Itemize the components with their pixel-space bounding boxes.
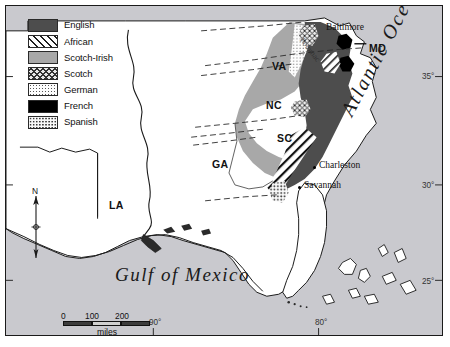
historical-ethnic-settlement-map: English African Scotch-Irish Scotch Germ… bbox=[0, 0, 450, 347]
legend-swatch-african bbox=[28, 35, 58, 48]
map-frame: English African Scotch-Irish Scotch Germ… bbox=[5, 5, 443, 336]
lon-label-80: 80° bbox=[315, 319, 327, 327]
legend-item-french[interactable]: French bbox=[28, 98, 138, 114]
state-label-la: LA bbox=[109, 200, 124, 211]
legend-swatch-german bbox=[28, 83, 58, 96]
scale-segment-1 bbox=[63, 321, 92, 326]
legend-label-african: African bbox=[64, 37, 93, 47]
compass-label-north: N bbox=[32, 187, 38, 195]
legend-label-scotch-irish: Scotch-Irish bbox=[64, 53, 113, 63]
scale-tick-0: 0 bbox=[61, 311, 66, 321]
legend-swatch-english bbox=[28, 19, 58, 32]
city-label-savannah: Savannah bbox=[304, 181, 341, 191]
legend-item-german[interactable]: German bbox=[28, 82, 138, 98]
state-label-sc: SC bbox=[277, 133, 292, 144]
legend-swatch-scotch-irish bbox=[28, 51, 58, 64]
scale-bar: 0 100 200 miles bbox=[63, 311, 151, 336]
scale-segment-3 bbox=[121, 321, 150, 326]
legend-label-spanish: Spanish bbox=[64, 117, 98, 127]
scale-bar-segments bbox=[63, 321, 151, 326]
legend-item-scotch-irish[interactable]: Scotch-Irish bbox=[28, 49, 138, 65]
scale-tick-100: 100 bbox=[85, 311, 99, 321]
gulf-of-mexico-label: Gulf of Mexico bbox=[115, 264, 250, 286]
ethnic-groups-legend: English African Scotch-Irish Scotch Germ… bbox=[28, 17, 138, 130]
legend-item-scotch[interactable]: Scotch bbox=[28, 66, 138, 82]
scale-segment-2 bbox=[92, 321, 121, 326]
legend-swatch-spanish bbox=[28, 116, 58, 129]
lat-label-25: 25° bbox=[422, 278, 434, 286]
legend-item-english[interactable]: English bbox=[28, 17, 138, 33]
lat-label-35: 35° bbox=[422, 73, 434, 81]
legend-item-african[interactable]: African bbox=[28, 33, 138, 49]
legend-item-spanish[interactable]: Spanish bbox=[28, 114, 138, 130]
compass-rose bbox=[26, 196, 46, 258]
state-label-va: VA bbox=[272, 61, 287, 72]
legend-label-scotch: Scotch bbox=[64, 69, 92, 79]
state-label-nc: NC bbox=[266, 100, 282, 111]
legend-label-english: English bbox=[64, 20, 94, 30]
legend-label-french: French bbox=[64, 101, 93, 111]
state-label-ga: GA bbox=[212, 159, 229, 170]
legend-label-german: German bbox=[64, 85, 98, 95]
lat-label-30: 30° bbox=[422, 182, 434, 190]
scale-bar-unit: miles bbox=[63, 327, 151, 337]
legend-swatch-french bbox=[28, 100, 58, 113]
scale-tick-200: 200 bbox=[115, 311, 129, 321]
city-label-charleston: Charleston bbox=[319, 161, 360, 171]
legend-swatch-scotch bbox=[28, 67, 58, 80]
city-label-baltimore: Baltimore bbox=[326, 23, 364, 33]
